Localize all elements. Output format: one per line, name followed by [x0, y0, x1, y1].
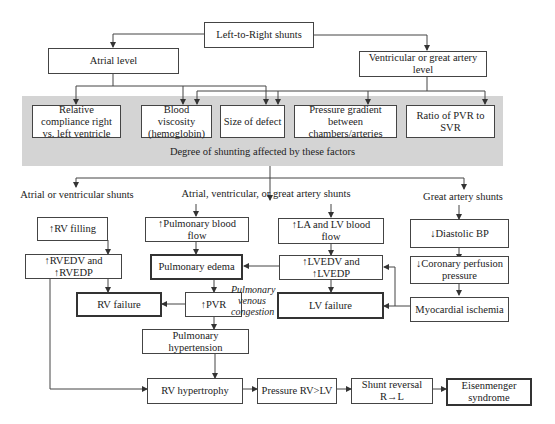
node-rv-hypertrophy: RV hypertrophy	[147, 378, 243, 404]
group-label-right: Great artery shunts	[418, 191, 508, 202]
factor-label: Size of defect	[224, 116, 282, 128]
node-rv-filling: ↑RV filling	[37, 217, 108, 241]
factor-label: Pressure gradient between chambers/arter…	[297, 104, 394, 140]
node-la-lv-flow: ↑LA and LV blood flow	[278, 218, 384, 244]
group-label-left: Atrial or ventricular shunts	[18, 189, 136, 200]
node-label: Pulmonary hypertension	[145, 330, 246, 354]
node-diastolic-bp: ↓Diastolic BP	[410, 219, 509, 248]
node-pulm-hypertension: Pulmonary hypertension	[142, 329, 249, 354]
node-label: Eisenmenger syndrome	[450, 380, 528, 404]
factors-caption: Degree of shunting affected by these fac…	[22, 146, 503, 157]
factor-label: Blood viscosity (hemoglobin)	[144, 104, 209, 140]
node-rv-failure: RV failure	[76, 292, 162, 317]
group-label-middle: Atrial, ventricular, or great artery shu…	[172, 188, 360, 199]
node-myocardial-ischemia: Myocardial ischemia	[410, 297, 509, 322]
factor-compliance: Relative compliance right vs. left ventr…	[32, 105, 121, 138]
node-lvedv: ↑LVEDV and ↑LVEDP	[279, 255, 383, 280]
node-label: ↑Pulmonary blood flow	[148, 218, 246, 242]
node-label: Pulmonary edema	[158, 261, 234, 273]
factor-label: Relative compliance right vs. left ventr…	[35, 104, 118, 140]
ventricular-level-label: Ventricular or great artery level	[362, 52, 484, 76]
node-pressure-rv-lv: Pressure RV>LV	[257, 378, 337, 404]
factor-pvr-svr: Ratio of PVR to SVR	[406, 105, 495, 138]
factor-viscosity: Blood viscosity (hemoglobin)	[141, 105, 212, 138]
node-label: ↑RV filling	[49, 223, 96, 235]
root-label: Left-to-Right shunts	[216, 29, 301, 41]
node-shunt-reversal: Shunt reversal R→L	[351, 378, 433, 404]
node-label: RV failure	[97, 299, 141, 311]
node-pulm-edema: Pulmonary edema	[150, 254, 243, 280]
node-label: ↓Diastolic BP	[430, 228, 489, 240]
node-label: Pressure RV>LV	[262, 385, 333, 397]
node-label: ↑LA and LV blood flow	[281, 219, 381, 243]
node-lv-failure: LV failure	[277, 292, 384, 319]
node-label: Shunt reversal R→L	[354, 379, 430, 403]
node-eisenmenger: Eisenmenger syndrome	[446, 378, 532, 406]
node-pulm-blood-flow: ↑Pulmonary blood flow	[145, 217, 249, 242]
node-label: LV failure	[309, 300, 352, 312]
node-label: ↑RVEDV and ↑RVEDP	[28, 255, 119, 279]
atrial-level-node: Atrial level	[48, 48, 179, 74]
ventricular-level-node: Ventricular or great artery level	[359, 51, 487, 77]
node-label: ↓Coronary perfusion pressure	[413, 258, 506, 282]
node-label: Myocardial ischemia	[415, 304, 503, 316]
atrial-level-label: Atrial level	[90, 55, 138, 67]
factor-label: Ratio of PVR to SVR	[409, 110, 492, 134]
root-node: Left-to-Right shunts	[204, 22, 314, 48]
node-label: RV hypertrophy	[161, 385, 229, 397]
node-rvedv: ↑RVEDV and ↑RVEDP	[25, 254, 122, 279]
node-coronary-perfusion: ↓Coronary perfusion pressure	[410, 256, 509, 284]
node-label: ↑LVEDV and ↑LVEDP	[282, 256, 380, 280]
annotation-pulmonary-venous-congestion: Pulmonary venous congestion	[231, 284, 273, 317]
factor-pressure-gradient: Pressure gradient between chambers/arter…	[294, 105, 397, 138]
factor-defect-size: Size of defect	[220, 105, 285, 138]
node-label: ↑PVR	[201, 299, 227, 311]
